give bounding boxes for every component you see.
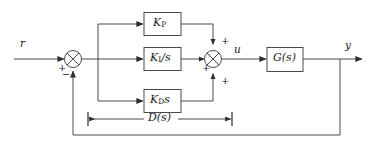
wire-branch-bus-left	[98, 24, 143, 101]
sum2-plus-sign-left: +	[202, 63, 210, 73]
plant-label: G(s)	[273, 52, 296, 63]
kd-symbol: K	[150, 93, 158, 106]
output-signal-label: y	[345, 40, 351, 51]
ki-tail: /s	[161, 51, 170, 64]
ki-symbol: K	[150, 51, 158, 64]
sum1-minus-sign-bottom: −	[62, 70, 70, 80]
diagram-canvas	[0, 0, 374, 149]
block-diagram: r + − KP KI/s KDs + + + u G(s) y D(s)	[0, 0, 374, 149]
error-summing-junction	[65, 51, 82, 68]
proportional-gain-label: KP	[153, 17, 166, 29]
derivative-gain-label: KDs	[150, 94, 170, 106]
controller-span-label: D(s)	[148, 112, 171, 123]
sum2-plus-sign-top: +	[221, 36, 229, 46]
kp-symbol: K	[153, 16, 161, 29]
control-signal-label: u	[234, 44, 241, 55]
kd-tail: s	[164, 93, 170, 106]
kp-subscript: P	[161, 20, 166, 29]
sum2-plus-sign-bottom: +	[221, 76, 229, 86]
reference-signal-label: r	[20, 38, 25, 49]
integral-gain-label: KI/s	[150, 52, 171, 64]
